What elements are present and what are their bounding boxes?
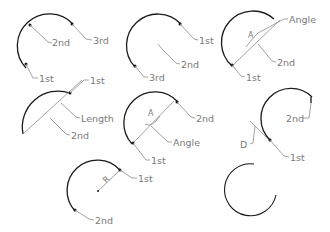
leader-1st — [270, 140, 289, 157]
diagram-start-center-end: 1st 2nd 3rd — [127, 14, 214, 83]
leader-2nd — [177, 102, 195, 118]
leader-1st — [133, 143, 150, 160]
label-3rd: 3rd — [93, 35, 109, 46]
arc — [67, 160, 120, 211]
label-1st: 1st — [90, 75, 105, 86]
label-1st: 1st — [246, 72, 261, 83]
label-2nd: 2nd — [95, 215, 113, 226]
leader-length — [61, 103, 80, 118]
label-A: A — [148, 109, 154, 118]
diagram-start-center-length: 1st Length 2nd — [22, 75, 113, 141]
leader-3rd — [72, 24, 92, 40]
label-2nd: 2nd — [52, 37, 70, 48]
leader-2nd — [30, 25, 52, 43]
leader-1st — [120, 170, 137, 178]
label-1st: 1st — [39, 73, 54, 84]
leader-1st — [26, 64, 38, 78]
leader-2nd — [303, 103, 311, 118]
label-D: D — [240, 139, 247, 150]
diagram-three-point: 2nd 3rd 1st — [17, 14, 109, 84]
label-1st: 1st — [151, 155, 166, 166]
diagram-start-end-radius: R 1st 2nd — [67, 160, 153, 226]
leader-1st — [232, 65, 245, 77]
label-2nd: 2nd — [181, 59, 199, 70]
leader-angle — [258, 19, 288, 33]
leader-2nd — [258, 44, 276, 62]
label-3rd: 3rd — [149, 72, 165, 83]
label-length: Length — [81, 113, 114, 124]
label-2nd: 2nd — [71, 130, 89, 141]
label-angle: Angle — [173, 137, 200, 148]
leader-1st — [180, 24, 198, 40]
diagram-continue — [225, 164, 276, 216]
label-angle: Angle — [289, 14, 316, 25]
leader-D — [250, 126, 255, 144]
leader-3rd — [135, 66, 148, 77]
leader-2nd — [50, 118, 70, 135]
diagram-start-end-angle: A 2nd Angle 1st — [124, 92, 214, 166]
leader-2nd — [162, 49, 180, 64]
label-1st: 1st — [290, 152, 305, 163]
label-2nd: 2nd — [196, 113, 214, 124]
label-1st: 1st — [138, 173, 153, 184]
arc-methods-diagram: 2nd 3rd 1st 1st 2nd 3rd A Angle 2nd 1st — [0, 0, 330, 232]
diagram-start-end-direction: 2nd D 1st — [240, 88, 312, 163]
label-2nd: 2nd — [286, 113, 304, 124]
leader-2nd — [75, 210, 94, 220]
label-1st: 1st — [199, 35, 214, 46]
leader-angle — [151, 126, 172, 142]
arc — [127, 14, 181, 67]
arc — [225, 164, 276, 216]
label-2nd: 2nd — [277, 57, 295, 68]
diagram-start-center-angle: A Angle 2nd 1st — [221, 11, 316, 83]
